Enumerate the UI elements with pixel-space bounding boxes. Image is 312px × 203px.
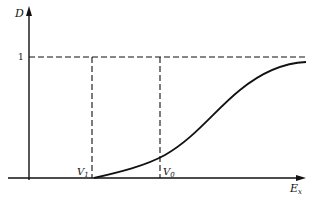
- level-label: 1: [18, 52, 24, 62]
- x-axis-arrow-icon: [296, 175, 306, 181]
- v0-label: V0: [163, 166, 175, 179]
- v1-label: V1: [77, 166, 89, 179]
- transmission-diagram: D 1 V1 V0 Ex: [0, 0, 312, 203]
- y-axis-label: D: [14, 7, 24, 20]
- x-axis-label: Ex: [289, 182, 302, 196]
- transmission-curve: [94, 62, 306, 178]
- y-axis-arrow-icon: [26, 6, 32, 16]
